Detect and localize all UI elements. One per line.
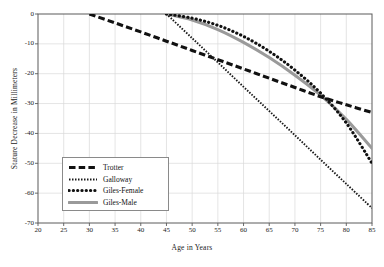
x-tick-label: 45 <box>152 226 180 234</box>
legend-item: Giles-Female <box>68 185 163 197</box>
legend-item: Trotter <box>68 162 163 174</box>
legend-label: Trotter <box>103 163 124 172</box>
series-line-trotter <box>89 14 372 113</box>
x-tick-label: 65 <box>255 226 283 234</box>
y-tick-label: -70 <box>8 219 34 227</box>
stature-decrease-chart: 2025303540455055606570758085 0-10-20-30-… <box>0 0 384 267</box>
x-tick-label: 30 <box>75 226 103 234</box>
x-tick-label: 60 <box>230 226 258 234</box>
legend-item: Galloway <box>68 174 163 186</box>
legend-swatch-solid-thick-icon <box>68 198 98 207</box>
x-tick-label: 20 <box>24 226 52 234</box>
legend-swatch-round-dotted-icon <box>68 186 98 195</box>
x-tick-label: 50 <box>178 226 206 234</box>
x-tick-label: 55 <box>204 226 232 234</box>
x-tick-label: 80 <box>332 226 360 234</box>
x-tick-label: 40 <box>127 226 155 234</box>
x-tick-label: 85 <box>358 226 384 234</box>
x-tick-label: 70 <box>281 226 309 234</box>
x-tick-label: 35 <box>101 226 129 234</box>
x-tick-label: 75 <box>307 226 335 234</box>
legend-label: Giles-Male <box>103 198 137 207</box>
y-axis-title: Stature Decrease in Millimeters <box>10 19 19 219</box>
legend-swatch-thick-dashed-icon <box>68 163 98 172</box>
y-tick-label: 0 <box>8 10 34 18</box>
legend-item: Giles-Male <box>68 197 163 209</box>
legend-label: Giles-Female <box>103 186 143 195</box>
legend-label: Galloway <box>103 175 132 184</box>
legend: TrotterGallowayGiles-FemaleGiles-Male <box>62 157 169 211</box>
x-axis-title: Age in Years <box>0 243 384 252</box>
legend-swatch-fine-dotted-icon <box>68 175 98 184</box>
x-tick-label: 25 <box>50 226 78 234</box>
